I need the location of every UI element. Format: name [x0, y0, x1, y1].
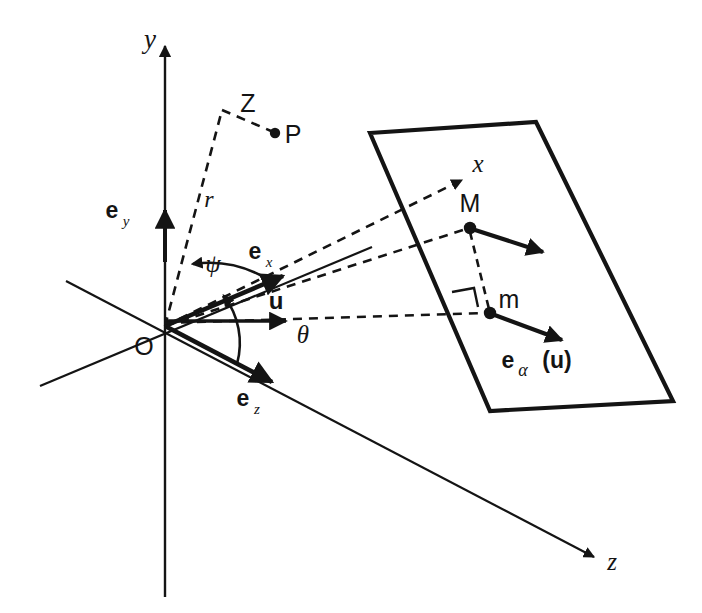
- e-y-base: e: [106, 197, 119, 223]
- point-label-Z: Z: [240, 89, 255, 117]
- unit-vector-label-e-x: e x: [249, 238, 273, 270]
- point-dot-P: [270, 128, 280, 138]
- angle-label-psi: ψ: [205, 250, 221, 277]
- e-x-subscript: x: [265, 254, 273, 270]
- e-z-subscript: z: [253, 401, 260, 417]
- point-dot-m: [484, 307, 496, 319]
- e-alpha-base: e: [502, 347, 515, 373]
- e-alpha-subscript: α: [518, 360, 528, 380]
- angle-arc-psi: [193, 263, 262, 276]
- geometry-figure: y x z e y e x e z u e α (u) ψ θ r O Z P: [0, 0, 702, 613]
- unit-vector-label-e-z: e z: [237, 385, 260, 417]
- point-label-O: O: [134, 332, 153, 360]
- e-alpha-argument: (u): [542, 347, 571, 373]
- angle-label-theta: θ: [297, 321, 309, 348]
- segment-label-r: r: [204, 186, 214, 212]
- e-z-vector: [165, 326, 272, 382]
- segment-r: [165, 110, 222, 326]
- axis-label-z: z: [606, 548, 617, 575]
- point-label-M: M: [460, 189, 481, 217]
- axis-label-y: y: [141, 24, 156, 54]
- unit-vector-label-e-y: e y: [106, 197, 130, 229]
- e-y-subscript: y: [121, 213, 130, 229]
- diagram-canvas: y x z e y e x e z u e α (u) ψ θ r O Z P: [0, 0, 702, 613]
- axis-label-x: x: [471, 150, 483, 177]
- e-z-base: e: [237, 385, 250, 411]
- point-label-m: m: [499, 285, 520, 313]
- e-x-base: e: [249, 238, 262, 264]
- unit-vector-label-u: u: [269, 287, 284, 314]
- point-dot-M: [464, 222, 476, 234]
- point-label-P: P: [285, 120, 302, 148]
